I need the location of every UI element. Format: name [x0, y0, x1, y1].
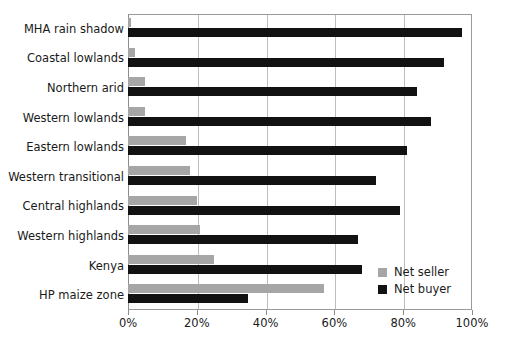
- category-label: Western transitional: [0, 171, 124, 183]
- bar-net-buyer: [128, 206, 400, 215]
- legend: Net sellerNet buyer: [378, 266, 451, 300]
- bar-net-seller: [128, 107, 145, 116]
- bar-net-seller: [128, 225, 200, 234]
- bar-group: [128, 192, 472, 222]
- bar-net-buyer: [128, 117, 431, 126]
- axis-tick-label: 20%: [184, 316, 210, 330]
- bar-group: [128, 103, 472, 133]
- axis-tick-label: 60%: [322, 316, 348, 330]
- legend-item[interactable]: Net buyer: [378, 283, 451, 295]
- category-axis: MHA rain shadowCoastal lowlandsNorthern …: [0, 14, 124, 310]
- axis-tick-label: 0%: [119, 316, 137, 330]
- axis-tick: [128, 310, 129, 315]
- bar-net-buyer: [128, 58, 444, 67]
- bar-net-buyer: [128, 176, 376, 185]
- legend-swatch-icon: [378, 268, 387, 277]
- bar-net-seller: [128, 255, 214, 264]
- bar-group: [128, 221, 472, 251]
- bar-net-seller: [128, 136, 186, 145]
- category-label: HP maize zone: [0, 289, 124, 301]
- legend-label: Net seller: [394, 266, 449, 278]
- axis-tick-label: 40%: [253, 316, 279, 330]
- bar-net-buyer: [128, 87, 417, 96]
- category-label: Kenya: [0, 260, 124, 272]
- legend-swatch-icon: [378, 285, 387, 294]
- bar-net-seller: [128, 196, 197, 205]
- category-label: MHA rain shadow: [0, 23, 124, 35]
- bar-net-seller: [128, 18, 131, 27]
- bar-net-seller: [128, 77, 145, 86]
- bar-net-buyer: [128, 235, 358, 244]
- bar-net-seller: [128, 48, 135, 57]
- category-label: Western highlands: [0, 230, 124, 242]
- bar-group: [128, 73, 472, 103]
- chart-container: MHA rain shadowCoastal lowlandsNorthern …: [0, 0, 505, 358]
- axis-tick: [472, 310, 473, 315]
- axis-tick: [334, 310, 335, 315]
- bar-group: [128, 132, 472, 162]
- axis-tick-label: 100%: [456, 316, 489, 330]
- bar-net-buyer: [128, 28, 462, 37]
- bar-net-buyer: [128, 294, 248, 303]
- legend-item[interactable]: Net seller: [378, 266, 451, 278]
- bar-group: [128, 162, 472, 192]
- axis-tick: [266, 310, 267, 315]
- bar-net-seller: [128, 166, 190, 175]
- value-axis: 0%20%40%60%80%100%: [128, 310, 472, 334]
- axis-tick: [403, 310, 404, 315]
- bar-group: [128, 44, 472, 74]
- bar-net-buyer: [128, 146, 407, 155]
- category-label: Northern arid: [0, 82, 124, 94]
- bar-group: [128, 14, 472, 44]
- legend-label: Net buyer: [394, 283, 451, 295]
- category-label: Central highlands: [0, 200, 124, 212]
- axis-tick: [197, 310, 198, 315]
- category-label: Western lowlands: [0, 112, 124, 124]
- category-label: Eastern lowlands: [0, 141, 124, 153]
- bar-net-seller: [128, 284, 324, 293]
- bar-net-buyer: [128, 265, 362, 274]
- axis-tick-label: 80%: [390, 316, 416, 330]
- category-label: Coastal lowlands: [0, 52, 124, 64]
